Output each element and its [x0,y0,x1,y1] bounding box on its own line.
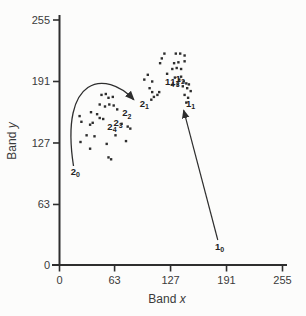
data-point [182,85,184,87]
data-point [78,115,80,117]
data-point [107,97,109,99]
data-point [153,96,155,98]
x-axis-title: Band x [148,292,186,306]
data-point [186,87,188,89]
data-point [85,134,87,136]
data-point [116,108,118,110]
data-point [96,113,98,115]
data-point [151,91,153,93]
data-point [113,104,115,106]
data-point [104,105,106,107]
data-point [129,127,131,129]
data-point [150,99,152,101]
data-point [99,117,101,119]
y-tick-label: 63 [38,198,50,210]
trajectory-1: 1011121314 [165,73,224,254]
data-point [148,87,150,89]
data-point [92,122,94,124]
x-tick-label: 0 [56,274,62,286]
data-point [110,158,112,160]
x-tick-label: 255 [273,274,291,286]
data-point [158,91,160,93]
trajectory-2: 2021222324 [71,83,149,178]
figure-canvas: 063127191255063127191255Band xBand y1011… [0,0,306,316]
trajectory-point-label: 11 [186,98,195,110]
data-point [177,61,179,63]
data-point [99,103,101,105]
data-point [173,62,175,64]
data-point [180,68,182,70]
data-point [108,103,110,105]
data-point [107,156,109,158]
data-point [183,60,185,62]
data-point [179,52,181,54]
data-point [105,93,107,95]
y-tick-label: 127 [32,137,50,149]
data-point [90,111,92,113]
trajectory-point-label: 22 [122,107,131,119]
data-point [171,68,173,70]
y-tick-label: 255 [32,14,50,26]
data-point [89,148,91,150]
data-point [151,80,153,82]
data-point [166,73,168,75]
data-point [156,94,158,96]
data-point [183,94,185,96]
data-point [100,94,102,96]
trajectory-point-label: 21 [140,98,149,110]
data-point [188,83,190,85]
data-point [114,134,116,136]
trajectory-point-label: 20 [71,166,80,178]
x-tick-label: 63 [108,274,120,286]
scatter-plot: 063127191255063127191255Band xBand y1011… [0,0,306,316]
data-point [79,141,81,143]
data-point [175,52,177,54]
y-tick-label: 191 [32,75,50,87]
trajectory-arrow [184,110,218,240]
data-point [80,121,82,123]
data-point [89,124,91,126]
data-point [159,62,161,64]
data-point [163,52,165,54]
data-point [176,67,178,69]
data-point [112,96,114,98]
data-point [147,74,149,76]
data-point [190,90,192,92]
data-point [127,125,129,127]
data-point [93,135,95,137]
data-point [143,78,145,80]
axes: 063127191255063127191255Band xBand y [5,14,292,306]
data-point [183,54,185,56]
data-point [106,143,108,145]
trajectory-point-label: 10 [215,241,224,253]
data-point [102,118,104,120]
y-axis-title: Band y [5,121,19,159]
data-points [78,52,191,160]
data-point [161,57,163,59]
y-tick-label: 0 [44,259,50,271]
x-tick-label: 191 [217,274,235,286]
data-point [125,140,127,142]
x-tick-label: 127 [161,274,179,286]
data-point [185,82,187,84]
